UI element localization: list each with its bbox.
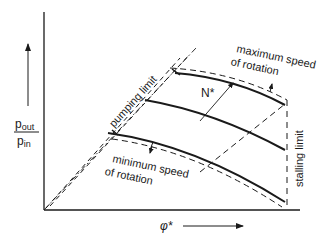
max-speed-label: maximum speed of rotation — [230, 42, 317, 85]
x-axis-label: φ* — [160, 219, 173, 233]
svg-text:pin: pin — [17, 134, 31, 149]
min-speed-label: minimum speed of rotation — [104, 151, 190, 194]
pumping-limit-line-inner — [50, 54, 190, 206]
compressor-map-diagram: pout pin φ* pumping limit maximum speed … — [0, 0, 327, 243]
y-axis-label: pout pin — [14, 117, 39, 149]
control-line — [200, 104, 285, 172]
intermediate-speed-curve — [145, 100, 285, 150]
svg-text:pout: pout — [15, 117, 35, 132]
max-speed-pointer-icon — [270, 84, 272, 92]
speed-parameter-label: N* — [201, 86, 215, 100]
stalling-limit-label: stalling limit — [293, 130, 305, 187]
